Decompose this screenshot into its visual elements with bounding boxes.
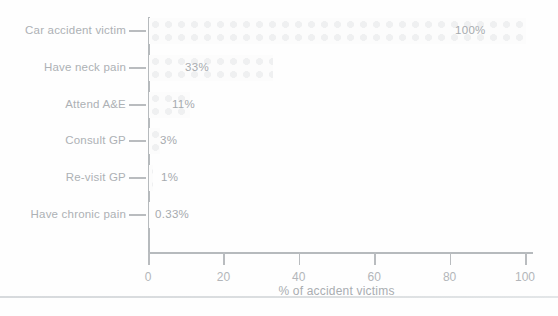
- value-label: 100%: [455, 24, 486, 36]
- category-tick-mark: [129, 140, 146, 142]
- bar-3: [149, 128, 160, 154]
- value-label: 3%: [160, 134, 177, 146]
- category-tick-mark: [129, 30, 146, 32]
- chart-figure: Car accident victim100%Have neck pain33%…: [0, 0, 558, 316]
- category-label: Attend A&E: [0, 98, 126, 110]
- bar-5: [149, 202, 150, 228]
- category-tick-mark: [129, 104, 146, 106]
- category-label: Car accident victim: [0, 24, 126, 36]
- category-tick-mark: [129, 214, 146, 216]
- value-label: 0.33%: [155, 208, 189, 220]
- value-label: 1%: [161, 171, 178, 183]
- value-label: 11%: [172, 98, 195, 110]
- x-axis-tick-label: 80: [443, 270, 456, 284]
- bar-4: [149, 165, 153, 191]
- bottom-separator-line: [0, 296, 558, 298]
- x-axis-tick-mark: [223, 252, 225, 265]
- category-label: Have chronic pain: [0, 208, 126, 220]
- category-label: Have neck pain: [0, 61, 126, 73]
- x-axis-tick-mark: [148, 252, 150, 265]
- x-axis-tick-label: 0: [145, 270, 152, 284]
- x-axis-tick-mark: [525, 252, 527, 265]
- category-tick-mark: [129, 67, 146, 69]
- category-tick-mark: [129, 177, 146, 179]
- x-axis-tick-label: 100: [515, 270, 535, 284]
- plot-area: Car accident victim100%Have neck pain33%…: [0, 0, 558, 316]
- x-axis-tick-label: 40: [292, 270, 305, 284]
- x-axis-tick-mark: [299, 252, 301, 265]
- x-axis-tick-label: 60: [368, 270, 381, 284]
- x-axis-tick-label: 20: [217, 270, 230, 284]
- value-label: 33%: [185, 61, 209, 73]
- x-axis-tick-mark: [450, 252, 452, 265]
- x-axis-line: [148, 252, 533, 254]
- x-axis-tick-mark: [374, 252, 376, 265]
- category-label: Consult GP: [0, 134, 126, 146]
- bar-1: [149, 55, 273, 81]
- category-label: Re-visit GP: [0, 171, 126, 183]
